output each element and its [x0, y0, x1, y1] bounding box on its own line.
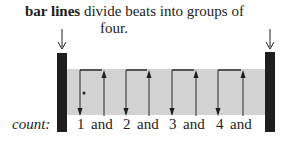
count-label: count:	[12, 116, 50, 133]
count-item: and	[230, 116, 252, 133]
count-item: 3	[169, 116, 177, 133]
pointer-arrow-left	[58, 29, 66, 49]
count-item: and	[137, 116, 159, 133]
count-item: 4	[216, 116, 224, 133]
count-item: 1	[77, 116, 85, 133]
bar-line-left	[57, 53, 67, 132]
count-item: 2	[123, 116, 131, 133]
measure-box	[66, 69, 266, 115]
dot-mark	[83, 92, 86, 95]
count-item: and	[91, 116, 113, 133]
count-item: and	[183, 116, 205, 133]
pointer-arrow-right	[266, 29, 274, 49]
bar-line-right	[265, 52, 275, 132]
